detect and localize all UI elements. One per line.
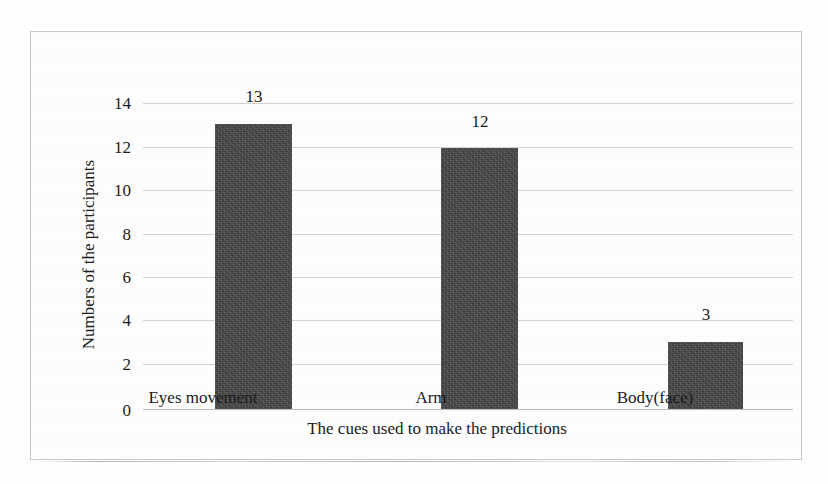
y-axis-title: Numbers of the participants [79,110,98,400]
y-axis-tick-labels: 14 12 10 8 6 4 2 0 [101,103,131,410]
bar-eyes-movement[interactable] [215,124,292,409]
x-tick-label-body-face: Body(face) [505,388,805,407]
y-tick-label: 12 [114,139,131,156]
y-tick-label: 4 [123,312,132,329]
scan-artifact-line [34,461,794,462]
chart-frame: Numbers of the participants 14 12 10 8 6… [30,31,802,460]
bar-arm[interactable] [441,148,518,409]
bar-value-label: 3 [656,306,756,323]
bar-value-label: 12 [430,113,530,130]
x-axis-title: The cues used to make the predictions [112,419,762,438]
y-tick-label: 10 [114,182,131,199]
bar-value-label: 13 [204,88,304,105]
y-tick-label: 6 [123,269,132,286]
y-tick-label: 14 [114,95,131,112]
plot-area: 13 12 3 [143,103,793,410]
y-tick-label: 8 [123,226,132,243]
y-tick-label: 2 [123,356,132,373]
x-axis-line [143,409,793,410]
